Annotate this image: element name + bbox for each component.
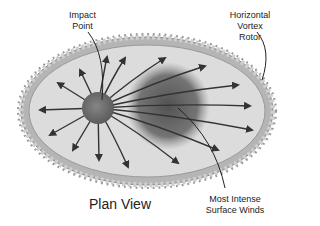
intense-winds-label: Most Intense Surface Winds <box>195 194 275 216</box>
vortex-rotor-label: Horizontal Vortex Rotor <box>215 10 285 43</box>
impact-point-label: Impact Point <box>55 10 110 32</box>
plan-view-title: Plan View <box>89 196 151 212</box>
impact-point-circle <box>82 92 114 124</box>
